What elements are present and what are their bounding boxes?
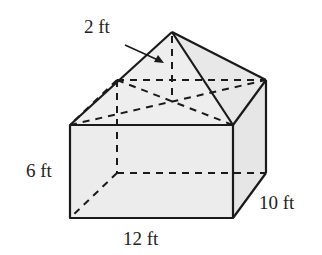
- composite-solid-diagram: [0, 0, 322, 255]
- pyramid-height-label: 2 ft: [84, 17, 110, 36]
- prism-height-label: 6 ft: [26, 161, 52, 180]
- prism-length-label: 12 ft: [123, 229, 158, 248]
- prism-front-face: [70, 125, 233, 218]
- prism-width-label: 10 ft: [259, 193, 294, 212]
